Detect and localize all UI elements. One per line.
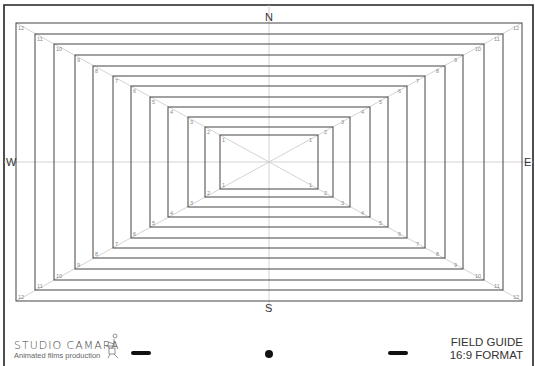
field-label: 4 <box>361 210 364 216</box>
compass-south: S <box>265 303 272 314</box>
field-label: 5 <box>379 220 382 226</box>
field-label: 11 <box>37 283 43 289</box>
field-label: 1 <box>309 182 312 188</box>
title-line-2: 16:9 FORMAT <box>450 349 523 362</box>
field-label: 10 <box>475 46 481 52</box>
registration-dot-center <box>265 350 273 358</box>
field-label: 3 <box>341 200 344 206</box>
compass-east: E <box>524 157 531 168</box>
field-label: 8 <box>436 68 439 74</box>
field-label: 2 <box>324 129 327 135</box>
camera-character-icon <box>100 332 122 360</box>
field-label: 11 <box>494 36 500 42</box>
field-label: 7 <box>115 78 118 84</box>
field-label: 6 <box>398 231 401 237</box>
compass-north: N <box>265 12 273 23</box>
field-label: 5 <box>152 99 155 105</box>
field-label: 9 <box>454 57 457 63</box>
field-label: 3 <box>190 119 193 125</box>
field-label: 4 <box>170 109 173 115</box>
field-label: 7 <box>416 241 419 247</box>
field-label: 9 <box>77 57 80 63</box>
title-block: FIELD GUIDE 16:9 FORMAT <box>450 336 523 362</box>
field-label: 8 <box>95 68 98 74</box>
field-label: 3 <box>190 200 193 206</box>
field-label: 9 <box>77 262 80 268</box>
title-line-1: FIELD GUIDE <box>450 336 523 349</box>
field-label: 12 <box>513 294 519 300</box>
registration-dash-right <box>388 351 408 355</box>
field-label: 12 <box>18 25 24 31</box>
field-label: 6 <box>133 88 136 94</box>
field-label: 9 <box>454 262 457 268</box>
field-label: 3 <box>341 119 344 125</box>
field-label: 4 <box>361 109 364 115</box>
field-label: 5 <box>152 220 155 226</box>
registration-dash-left <box>131 351 151 355</box>
compass-west: W <box>6 157 16 168</box>
field-label: 2 <box>207 129 210 135</box>
field-label: 6 <box>398 88 401 94</box>
field-label: 8 <box>436 251 439 257</box>
field-label: 12 <box>513 25 519 31</box>
field-label: 2 <box>324 190 327 196</box>
field-label: 11 <box>494 283 500 289</box>
field-label: 8 <box>95 251 98 257</box>
field-label: 6 <box>133 231 136 237</box>
field-label: 10 <box>475 273 481 279</box>
field-label: 7 <box>416 78 419 84</box>
field-label: 1 <box>309 137 312 143</box>
field-label: 7 <box>115 241 118 247</box>
field-label: 5 <box>379 99 382 105</box>
field-label: 12 <box>18 294 24 300</box>
field-label: 10 <box>56 46 62 52</box>
field-label: 1 <box>222 182 225 188</box>
field-label: 2 <box>207 190 210 196</box>
field-label: 11 <box>37 36 43 42</box>
field-label: 10 <box>56 273 62 279</box>
field-label: 4 <box>170 210 173 216</box>
field-label: 1 <box>222 137 225 143</box>
